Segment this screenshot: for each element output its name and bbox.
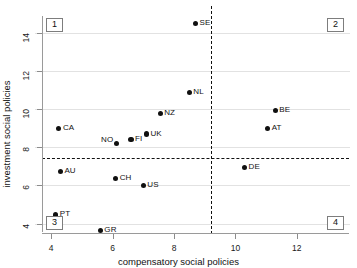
scatter-plot-figure: SENLBENZATCAUKFINODEAUCHUSPTGR 468101214… xyxy=(0,0,357,268)
y-tick-8 xyxy=(37,147,42,148)
y-axis-spine xyxy=(42,16,43,232)
gridline-y-10 xyxy=(35,109,350,110)
x-tick-12 xyxy=(297,234,298,239)
point-marker xyxy=(56,126,61,131)
point-label-ca: CA xyxy=(63,123,74,132)
quadrant-label-4: 4 xyxy=(327,216,344,230)
point-marker xyxy=(58,169,63,174)
y-tick-6 xyxy=(37,185,42,186)
y-tick-10 xyxy=(37,109,42,110)
gridline-y-12 xyxy=(35,71,350,72)
point-marker xyxy=(141,183,146,188)
plot-area: SENLBENZATCAUKFINODEAUCHUSPTGR 468101214… xyxy=(35,14,350,238)
point-marker xyxy=(242,165,247,170)
point-label-nl: NL xyxy=(193,87,203,96)
point-label-se: SE xyxy=(200,18,211,27)
x-tick-8 xyxy=(174,234,175,239)
y-tick-14 xyxy=(37,33,42,34)
y-axis-title: investment social policies xyxy=(1,80,12,187)
x-tick-label-12: 12 xyxy=(292,243,301,253)
y-tick-label-14: 14 xyxy=(21,33,31,42)
point-marker xyxy=(265,126,270,131)
gridline-y-14 xyxy=(35,33,350,34)
point-label-be: BE xyxy=(279,105,290,114)
quadrant-label-3: 3 xyxy=(46,216,63,230)
y-tick-label-12: 12 xyxy=(21,71,31,80)
y-tick-label-10: 10 xyxy=(21,109,31,118)
point-marker xyxy=(193,21,198,26)
point-label-uk: UK xyxy=(150,129,161,138)
point-marker xyxy=(113,176,118,181)
gridline-y-4 xyxy=(35,224,350,225)
point-label-no: NO xyxy=(101,135,113,144)
y-tick-label-6: 6 xyxy=(21,185,31,190)
x-axis-title: compensatory social policies xyxy=(0,256,357,267)
plot-panel: SENLBENZATCAUKFINODEAUCHUSPTGR 468101214… xyxy=(35,14,350,238)
point-marker xyxy=(114,141,119,146)
point-marker xyxy=(144,131,149,136)
point-label-ch: CH xyxy=(120,173,132,182)
y-tick-4 xyxy=(37,224,42,225)
x-tick-label-10: 10 xyxy=(231,243,240,253)
point-marker xyxy=(273,108,278,113)
point-marker xyxy=(158,111,163,116)
quadrant-label-1: 1 xyxy=(46,18,63,32)
point-label-fi: FI xyxy=(135,134,142,143)
x-tick-label-4: 4 xyxy=(49,243,54,253)
y-tick-label-4: 4 xyxy=(21,224,31,229)
x-tick-label-8: 8 xyxy=(172,243,177,253)
y-tick-12 xyxy=(37,71,42,72)
x-tick-6 xyxy=(113,234,114,239)
x-tick-10 xyxy=(235,234,236,239)
x-tick-label-6: 6 xyxy=(110,243,115,253)
point-marker xyxy=(98,228,103,233)
point-label-de: DE xyxy=(249,162,260,171)
gridline-y-6 xyxy=(35,185,350,186)
quadrant-label-2: 2 xyxy=(327,18,344,32)
y-tick-label-8: 8 xyxy=(21,147,31,152)
point-label-us: US xyxy=(147,180,158,189)
x-axis-spine xyxy=(42,233,349,234)
reference-line-horizontal xyxy=(42,158,349,159)
reference-line-vertical xyxy=(211,6,212,234)
point-label-at: AT xyxy=(272,123,282,132)
gridline-y-8 xyxy=(35,147,350,148)
point-label-au: AU xyxy=(64,166,75,175)
x-tick-4 xyxy=(51,234,52,239)
point-marker xyxy=(128,137,133,142)
point-marker xyxy=(187,90,192,95)
point-label-nz: NZ xyxy=(164,108,175,117)
